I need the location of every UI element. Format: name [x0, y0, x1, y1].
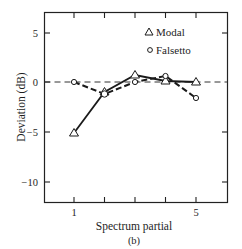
y-tick-5: 5	[33, 28, 38, 39]
legend: Modal Falsetto	[145, 26, 191, 56]
plot-frame	[45, 13, 228, 203]
figure-caption: (b)	[128, 235, 141, 247]
x-axis-label: Spectrum partial	[96, 220, 172, 233]
legend-modal-label: Modal	[156, 26, 185, 38]
legend-circle-icon	[148, 48, 153, 53]
y-axis-label: Deviation (dB)	[15, 72, 28, 141]
y-tick-minus5: −5	[27, 127, 38, 138]
circle-icon	[132, 79, 137, 84]
circle-icon	[71, 79, 76, 84]
circle-icon	[193, 95, 198, 100]
y-ticks	[45, 33, 228, 182]
circle-icon	[163, 73, 168, 78]
circle-icon	[101, 91, 107, 97]
triangle-icon	[131, 71, 140, 79]
x-tick-1: 1	[71, 207, 76, 218]
legend-triangle-icon	[145, 28, 153, 35]
legend-falsetto-label: Falsetto	[156, 44, 191, 56]
y-tick-0: 0	[33, 77, 38, 88]
chart: 5 0 −5 −10 1 5 Spectrum partial Deviatio…	[0, 0, 242, 249]
x-tick-5: 5	[193, 207, 198, 218]
y-tick-minus10: −10	[22, 177, 38, 188]
